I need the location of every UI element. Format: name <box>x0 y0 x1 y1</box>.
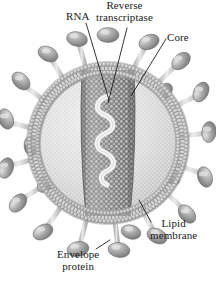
label-lipid-membrane-line2: membrane <box>150 229 197 241</box>
membrane-lipid-head-outer <box>102 62 107 67</box>
membrane-lipid-tail <box>32 153 36 154</box>
membrane-lipid-tail <box>118 67 119 71</box>
membrane-lipid-tail <box>32 132 36 133</box>
label-rna: RNA <box>66 11 90 23</box>
membrane-lipid-tail <box>180 153 184 154</box>
label-core: Core <box>167 32 189 44</box>
membrane-lipid-tail <box>33 157 37 158</box>
membrane-lipid-tail <box>97 67 98 71</box>
membrane-lipid-tail <box>179 129 183 130</box>
viral-core <box>76 66 142 220</box>
membrane-lipid-tail <box>180 132 184 133</box>
membrane-lipid-tail <box>122 68 123 72</box>
membrane-lipid-tail <box>118 215 119 219</box>
label-reverse-transcriptase: Reverse transcriptase <box>96 0 153 23</box>
membrane-lipid-tail <box>33 129 37 130</box>
label-envelope-protein: Envelope protein <box>57 249 99 272</box>
membrane-lipid-tail <box>179 157 183 158</box>
label-reverse-transcriptase-line1: Reverse <box>106 0 142 11</box>
label-core-text: Core <box>167 31 189 43</box>
label-rna-text: RNA <box>66 10 90 22</box>
label-envelope-protein-line1: Envelope <box>57 248 99 260</box>
membrane-lipid-tail <box>94 214 95 218</box>
label-envelope-protein-line2: protein <box>62 260 94 272</box>
membrane-lipid-tail <box>94 68 95 72</box>
envelope-protein <box>97 28 119 43</box>
membrane-lipid-tail <box>122 214 123 218</box>
label-reverse-transcriptase-line2: transcriptase <box>96 11 153 23</box>
membrane-lipid-head-inner <box>102 70 107 75</box>
label-lipid-membrane: Lipid membrane <box>150 218 197 241</box>
label-lipid-membrane-line1: Lipid <box>161 217 185 229</box>
membrane-lipid-tail <box>97 215 98 219</box>
